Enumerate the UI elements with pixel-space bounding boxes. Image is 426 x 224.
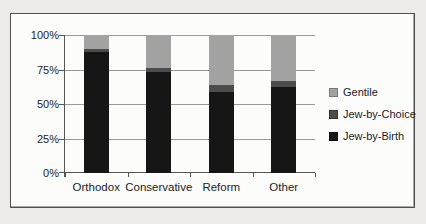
y-axis-tick (59, 139, 64, 140)
segment-jew-by-birth (209, 92, 234, 173)
segment-jew-by-choice (271, 81, 296, 88)
y-axis-label: 0% (15, 167, 59, 179)
y-axis-label: 100% (15, 29, 59, 41)
x-axis-label-reform: Reform (186, 181, 256, 193)
y-axis-tick (59, 70, 64, 71)
legend-swatch-icon (329, 110, 338, 119)
page: { "chart_data": { "type": "bar", "subtyp… (0, 0, 426, 224)
x-axis-label-orthodox: Orthodox (61, 181, 131, 193)
segment-jew-by-birth (271, 87, 296, 173)
legend-item-jew-by-birth: Jew-by-Birth (329, 125, 416, 147)
x-axis-tick (253, 173, 254, 177)
legend-item-gentile: Gentile (329, 81, 416, 103)
legend: GentileJew-by-ChoiceJew-by-Birth (329, 81, 416, 147)
x-axis-tick (190, 173, 191, 177)
legend-label: Jew-by-Birth (343, 130, 404, 142)
bar-orthodox (84, 35, 109, 173)
x-axis-label-conservative: Conservative (124, 181, 194, 193)
segment-jew-by-birth (84, 52, 109, 173)
legend-swatch-icon (329, 132, 338, 141)
bar-conservative (146, 35, 171, 173)
segment-gentile (271, 35, 296, 81)
legend-item-jew-by-choice: Jew-by-Choice (329, 103, 416, 125)
legend-swatch-icon (329, 88, 338, 97)
y-axis-tick (59, 172, 64, 173)
segment-jew-by-choice (209, 85, 234, 92)
segment-gentile (146, 35, 171, 68)
legend-label: Gentile (343, 86, 378, 98)
x-axis-tick (128, 173, 129, 177)
segment-jew-by-birth (146, 72, 171, 173)
x-axis-tick (315, 173, 316, 177)
y-axis-line (64, 35, 65, 177)
segment-gentile (209, 35, 234, 85)
plot-area: 100%75%50%25%0%OrthodoxConservativeRefor… (65, 35, 315, 173)
x-axis-tick (65, 173, 66, 177)
y-axis-label: 75% (15, 64, 59, 76)
chart-frame: 100%75%50%25%0%OrthodoxConservativeRefor… (10, 13, 415, 208)
y-axis-tick (59, 35, 64, 36)
x-axis-label-other: Other (249, 181, 319, 193)
bar-reform (209, 35, 234, 173)
y-axis-tick (59, 104, 64, 105)
bar-other (271, 35, 296, 173)
legend-label: Jew-by-Choice (343, 108, 416, 120)
y-axis-label: 50% (15, 98, 59, 110)
segment-gentile (84, 35, 109, 49)
y-axis-label: 25% (15, 133, 59, 145)
